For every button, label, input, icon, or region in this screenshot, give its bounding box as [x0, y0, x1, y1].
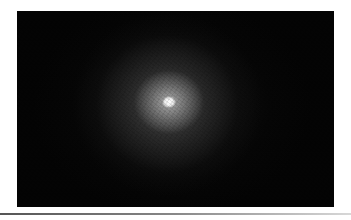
image-noise	[17, 11, 334, 207]
divider-line	[0, 213, 351, 215]
galaxy-image: Astronomical image of an elliptical gala…	[17, 11, 334, 207]
